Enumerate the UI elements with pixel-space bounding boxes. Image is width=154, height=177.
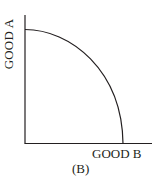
y-axis-label: GOOD A xyxy=(0,14,18,74)
x-axis-label: GOOD B xyxy=(92,146,141,162)
ppf-curve xyxy=(25,30,123,144)
figure-caption: (B) xyxy=(72,161,89,177)
y-axis-label-text: GOOD A xyxy=(1,19,17,70)
